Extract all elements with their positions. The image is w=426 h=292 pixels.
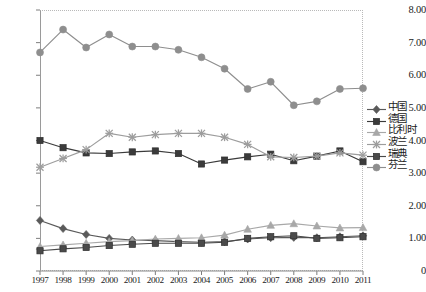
data-point-marker	[83, 244, 89, 250]
data-point-marker	[290, 220, 298, 227]
legend-marker-icon	[366, 136, 387, 147]
data-point-marker	[221, 133, 229, 141]
data-point-marker	[175, 240, 181, 246]
legend-label: 波兰	[387, 136, 407, 147]
data-point-marker	[337, 235, 343, 241]
legend-label: 瑞典	[387, 148, 407, 159]
series-芬兰	[37, 26, 367, 109]
data-point-marker	[60, 246, 66, 252]
data-point-marker	[59, 225, 66, 233]
data-point-marker	[314, 235, 320, 241]
legend-item-波兰[interactable]: 波兰	[366, 136, 424, 148]
legend-label: 中国	[387, 101, 407, 112]
data-point-marker	[175, 46, 182, 53]
data-point-marker	[291, 233, 297, 239]
data-point-marker	[37, 49, 44, 56]
data-point-marker	[36, 216, 43, 224]
data-point-marker	[245, 235, 251, 241]
data-point-marker	[83, 230, 90, 238]
legend-marker-icon	[366, 113, 387, 124]
data-point-marker	[360, 234, 366, 240]
data-point-marker	[268, 234, 274, 240]
data-point-marker	[129, 149, 135, 155]
data-point-marker	[151, 131, 159, 139]
data-point-marker	[106, 150, 112, 156]
data-point-marker	[267, 78, 274, 85]
data-point-marker	[60, 26, 67, 33]
data-point-marker	[105, 129, 113, 137]
data-point-marker	[244, 85, 251, 92]
data-point-marker	[175, 150, 181, 156]
data-point-marker	[198, 240, 204, 246]
data-point-marker	[106, 242, 112, 248]
data-point-marker	[129, 241, 135, 247]
data-point-marker	[36, 163, 44, 171]
legend-item-德国[interactable]: 德国	[366, 113, 424, 125]
data-point-marker	[152, 43, 159, 50]
legend-marker-icon	[366, 159, 387, 170]
legend-item-比利时[interactable]: 比利时	[366, 124, 424, 136]
data-point-marker	[83, 44, 90, 51]
data-point-marker	[360, 85, 367, 92]
legend-item-芬兰[interactable]: 芬兰	[366, 159, 424, 171]
data-point-marker	[59, 155, 67, 163]
data-point-marker	[290, 154, 298, 162]
chart-legend: 中国德国比利时波兰瑞典芬兰	[366, 100, 424, 172]
data-point-marker	[221, 65, 228, 72]
legend-item-瑞典[interactable]: 瑞典	[366, 147, 424, 159]
data-point-marker	[245, 154, 251, 160]
data-point-marker	[198, 54, 205, 61]
legend-label: 德国	[387, 113, 407, 124]
data-point-marker	[37, 248, 43, 254]
data-point-marker	[129, 43, 136, 50]
legend-marker-icon	[366, 148, 387, 159]
data-point-marker	[313, 98, 320, 105]
data-point-marker	[128, 133, 136, 141]
line-chart: 01.002.003.004.005.006.007.008.00 199719…	[0, 0, 426, 292]
data-point-marker	[290, 102, 297, 109]
data-point-marker	[336, 149, 344, 157]
data-point-marker	[152, 240, 158, 246]
legend-marker-icon	[366, 101, 387, 112]
data-point-marker	[198, 161, 204, 167]
data-point-marker	[175, 129, 183, 137]
legend-label: 比利时	[387, 124, 416, 135]
data-point-marker	[106, 31, 113, 38]
data-point-marker	[152, 148, 158, 154]
data-point-marker	[37, 137, 43, 143]
chart-canvas	[0, 0, 426, 292]
data-point-marker	[198, 129, 206, 137]
data-point-marker	[267, 153, 275, 161]
series-line	[40, 30, 363, 106]
data-point-marker	[244, 141, 252, 149]
legend-marker-icon	[366, 124, 387, 135]
data-point-marker	[82, 146, 90, 154]
data-point-marker	[60, 145, 66, 151]
legend-item-中国[interactable]: 中国	[366, 101, 424, 113]
data-point-marker	[221, 239, 227, 245]
data-point-marker	[313, 152, 321, 160]
data-point-marker	[221, 157, 227, 163]
legend-label: 芬兰	[387, 159, 407, 170]
data-point-marker	[373, 164, 380, 171]
data-point-marker	[336, 85, 343, 92]
